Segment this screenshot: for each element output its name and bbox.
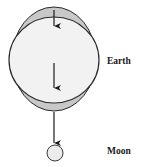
moon-circle [47,145,63,161]
earth-circle [9,17,99,103]
moon-label: Moon [107,146,131,156]
tidal-diagram [0,0,148,167]
earth-label: Earth [107,56,131,66]
